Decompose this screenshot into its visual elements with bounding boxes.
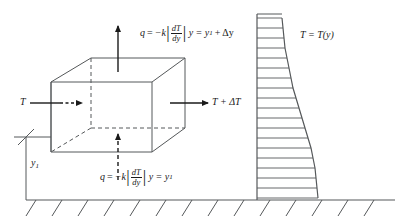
flux-in-sub: 1 (169, 174, 173, 181)
flux-in-location: y = y (147, 172, 170, 182)
height-label: y1 (31, 158, 39, 170)
flux-out-equation: q = −k | dT dy | y = y1 + Δy (140, 24, 234, 43)
flux-in-equals: = (105, 172, 115, 182)
diagram-canvas: q = −k | dT dy | y = y1 + Δy q = −k | dT… (0, 0, 395, 221)
profile-label: T = T(y) (300, 30, 334, 40)
flux-out-location: y = y (187, 28, 210, 38)
flux-in-minus-k: −k (115, 172, 126, 182)
flux-in-derivative: dT dy (131, 168, 142, 187)
temp-out-label: T + ΔT (212, 97, 241, 107)
abs-bar-right: | (143, 171, 146, 183)
flux-in-denominator: dy (131, 178, 142, 187)
temperature-profile (257, 14, 318, 200)
flux-out-derivative: dT dy (171, 24, 182, 43)
abs-bar-left: | (126, 171, 129, 183)
abs-bar-right: | (183, 27, 186, 39)
flux-in-equation: q = −k | dT dy | y = y1 (100, 168, 173, 187)
ground (26, 200, 395, 216)
profile-tick-lines (257, 18, 318, 198)
temp-in-label: T (20, 97, 26, 107)
flux-out-minus-k: −k (155, 28, 166, 38)
height-subscript: 1 (35, 162, 39, 170)
flux-out-denominator: dy (171, 34, 182, 43)
abs-bar-left: | (166, 27, 169, 39)
flux-out-delta: + Δy (213, 28, 234, 38)
flux-out-equals: = (145, 28, 155, 38)
